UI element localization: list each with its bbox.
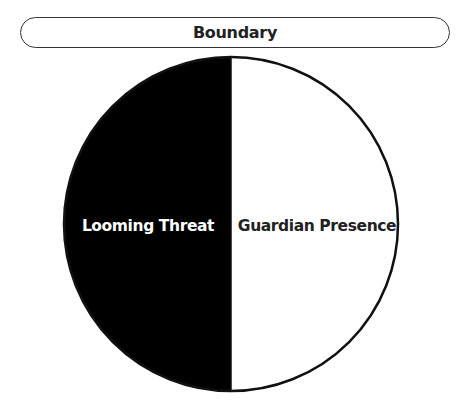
looming-threat-label: Looming Threat — [82, 217, 215, 235]
split-circle-diagram: Looming Threat Guardian Presence — [0, 0, 470, 412]
guardian-presence-label: Guardian Presence — [238, 217, 396, 235]
